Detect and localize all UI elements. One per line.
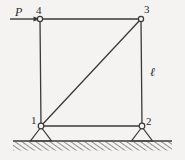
joint-node-3 — [138, 16, 143, 21]
joint-node-2 — [139, 123, 145, 129]
node-label-3: 3 — [144, 4, 150, 15]
ground-hatching — [13, 142, 172, 151]
member-right-column — [141, 19, 142, 126]
truss-diagram-canvas — [0, 0, 185, 160]
node-label-4: 4 — [36, 5, 42, 16]
member-diagonal-brace — [41, 19, 141, 126]
truss-diagram: P 4 3 1 2 ℓ — [0, 0, 185, 160]
dimension-label-length: ℓ — [150, 66, 155, 78]
frame-members — [40, 19, 142, 126]
joint-node-4 — [37, 16, 42, 21]
node-label-1: 1 — [31, 115, 37, 126]
joint-node-1 — [38, 123, 44, 129]
node-label-2: 2 — [146, 116, 152, 127]
load-label-p: P — [15, 6, 22, 18]
member-left-column — [40, 19, 41, 126]
